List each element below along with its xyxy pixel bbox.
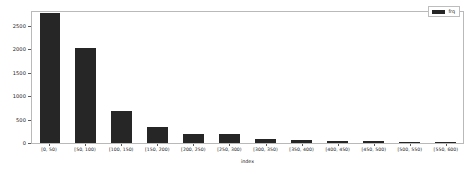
bar[interactable]	[147, 127, 168, 143]
legend-swatch-frq	[432, 10, 445, 14]
bars-container	[32, 12, 463, 143]
bar[interactable]	[40, 13, 61, 143]
x-tick-label: [300, 350)	[253, 147, 278, 152]
bar-slot	[355, 12, 391, 143]
bar-slot	[427, 12, 463, 143]
x-tick-mark	[410, 144, 411, 146]
x-axis-tick: [550, 600)	[428, 144, 464, 158]
bar-slot	[391, 12, 427, 143]
x-tick-mark	[193, 144, 194, 146]
bar-slot	[68, 12, 104, 143]
bar-slot	[319, 12, 355, 143]
bar[interactable]	[291, 140, 312, 143]
x-tick-label: [250, 300)	[217, 147, 242, 152]
x-axis-label: index	[31, 159, 464, 164]
x-axis: [0, 50)[50, 100)[100, 150)[150, 200)[200…	[31, 144, 464, 158]
bar[interactable]	[111, 111, 132, 143]
bar-slot	[212, 12, 248, 143]
x-tick-label: [450, 500)	[361, 147, 386, 152]
plot-area	[31, 11, 464, 144]
x-tick-label: [100, 150)	[109, 147, 134, 152]
x-tick-label: [350, 400)	[289, 147, 314, 152]
x-axis-tick: [200, 250)	[175, 144, 211, 158]
y-tick-label: 0	[23, 139, 26, 147]
bar[interactable]	[183, 134, 204, 143]
x-axis-tick: [100, 150)	[103, 144, 139, 158]
x-tick-mark	[49, 144, 50, 146]
y-axis: 05001000150020002500	[0, 11, 31, 144]
bar-slot	[248, 12, 284, 143]
y-tick-label: 2000	[13, 45, 26, 53]
bar-slot	[104, 12, 140, 143]
y-tick-label: 1000	[13, 92, 26, 100]
bar-slot	[176, 12, 212, 143]
x-axis-tick: [50, 100)	[67, 144, 103, 158]
bar[interactable]	[399, 142, 420, 143]
x-tick-label: [50, 100)	[74, 147, 96, 152]
x-tick-mark	[374, 144, 375, 146]
bar[interactable]	[255, 139, 276, 143]
x-tick-mark	[302, 144, 303, 146]
x-axis-tick: [450, 500)	[356, 144, 392, 158]
x-tick-label: [150, 200)	[145, 147, 170, 152]
bar-slot	[140, 12, 176, 143]
bar[interactable]	[435, 142, 456, 143]
y-tick-label: 2500	[13, 22, 26, 30]
x-tick-label: [400, 450)	[325, 147, 350, 152]
x-tick-mark	[121, 144, 122, 146]
x-tick-mark	[446, 144, 447, 146]
bar-slot	[283, 12, 319, 143]
x-tick-mark	[85, 144, 86, 146]
x-tick-mark	[338, 144, 339, 146]
x-axis-tick: [500, 550)	[392, 144, 428, 158]
x-tick-mark	[266, 144, 267, 146]
bar[interactable]	[363, 141, 384, 143]
x-axis-tick: [300, 350)	[247, 144, 283, 158]
x-tick-mark	[157, 144, 158, 146]
y-tick-label: 500	[16, 116, 26, 124]
x-tick-mark	[229, 144, 230, 146]
bar-slot	[32, 12, 68, 143]
x-axis-tick: [250, 300)	[211, 144, 247, 158]
bar[interactable]	[75, 48, 96, 143]
x-axis-tick: [350, 400)	[284, 144, 320, 158]
x-axis-tick: [150, 200)	[139, 144, 175, 158]
bar-chart-figure: 05001000150020002500 [0, 50)[50, 100)[10…	[0, 0, 469, 171]
x-tick-label: [550, 600)	[434, 147, 459, 152]
bar[interactable]	[327, 141, 348, 143]
y-tick-label: 1500	[13, 69, 26, 77]
bar[interactable]	[219, 134, 240, 143]
x-tick-label: [200, 250)	[181, 147, 206, 152]
x-axis-tick: [400, 450)	[320, 144, 356, 158]
x-axis-tick: [0, 50)	[31, 144, 67, 158]
legend-label-frq: frq	[448, 9, 455, 14]
legend: frq	[428, 6, 460, 17]
x-tick-label: [0, 50)	[41, 147, 57, 152]
x-tick-label: [500, 550)	[398, 147, 423, 152]
